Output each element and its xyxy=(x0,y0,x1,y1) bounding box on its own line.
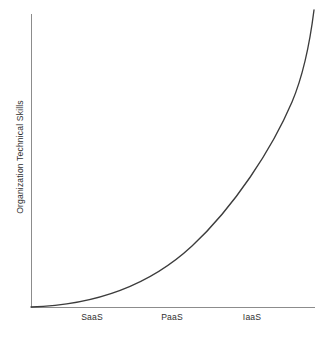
chart-container: Organization Technical Skills SaaS PaaS … xyxy=(0,0,326,337)
x-tick-label-iaas: IaaS xyxy=(243,312,261,322)
x-tick-label-saas: SaaS xyxy=(81,312,103,322)
exponential-growth-curve xyxy=(31,10,314,307)
y-axis-label: Organization Technical Skills xyxy=(15,100,25,214)
x-tick-label-paas: PaaS xyxy=(161,312,183,322)
chart-plot-area xyxy=(0,0,326,337)
